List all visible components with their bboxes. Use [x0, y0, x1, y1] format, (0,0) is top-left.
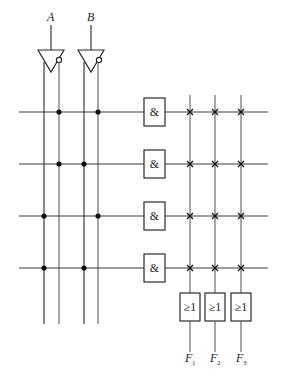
and-gate-p2: &	[144, 150, 165, 178]
or-gate-f2: ≥1F2	[205, 293, 225, 367]
output-label-sub: 2	[217, 359, 221, 367]
fixed-connection-dot	[41, 213, 46, 218]
fixed-connection-dot	[56, 161, 61, 166]
fixed-connection-dot	[95, 109, 100, 114]
fixed-connection-dot	[41, 265, 46, 270]
fixed-connection-dot	[56, 109, 61, 114]
fixed-connection-dot	[81, 161, 86, 166]
or-gate-f3: ≥1F3	[231, 293, 251, 367]
and-gate-p1: &	[144, 98, 165, 126]
inverter-bubble-icon	[56, 57, 61, 62]
output-label-sub: 3	[243, 359, 247, 367]
or-gate-symbol: ≥1	[184, 300, 197, 314]
input-label-b: B	[87, 10, 95, 24]
and-gate-symbol: &	[150, 105, 160, 119]
inverter-bubble-icon	[96, 57, 101, 62]
or-gate-symbol: ≥1	[235, 300, 248, 314]
input-label-a: A	[46, 10, 55, 24]
output-label-sub: 1	[192, 359, 196, 367]
and-gate-p3: &	[144, 202, 165, 230]
and-gate-symbol: &	[150, 261, 160, 275]
input-buffer-a: A	[38, 10, 64, 72]
or-gate-f1: ≥1F1	[180, 293, 200, 367]
and-gate-symbol: &	[150, 157, 160, 171]
fixed-connection-dot	[95, 213, 100, 218]
and-gate-symbol: &	[150, 209, 160, 223]
input-buffer-b: B	[78, 10, 104, 72]
or-gate-symbol: ≥1	[209, 300, 222, 314]
pla-diagram: AB &&&& ≥1F1≥1F2≥1F3	[0, 0, 281, 380]
and-gate-p4: &	[144, 254, 165, 282]
fixed-connection-dot	[81, 265, 86, 270]
